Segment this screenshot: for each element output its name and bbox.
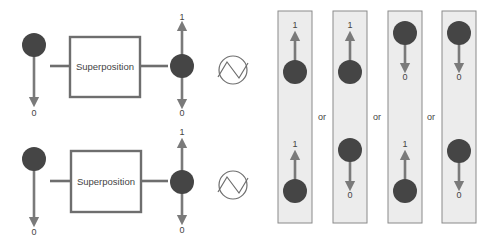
input-qubit (22, 147, 46, 171)
state-label-zero: 0 (456, 72, 461, 82)
state-label-one: 1 (402, 139, 407, 149)
outcome-panel-2: 10 (333, 11, 367, 223)
superposition-diagram: 0Superposition100Superposition10 1110010… (0, 0, 495, 243)
state-label-one: 1 (292, 139, 297, 149)
input-state-label: 0 (31, 227, 36, 237)
row-top: 0Superposition10 (22, 12, 248, 118)
state-label-zero: 0 (347, 190, 352, 200)
row-bottom: 0Superposition10 (22, 127, 248, 237)
state-label-one: 1 (179, 127, 184, 137)
input-state-label: 0 (31, 108, 36, 118)
or-separator: or (373, 112, 381, 122)
output-qubit-superposed (170, 170, 194, 194)
wave-oscillation-icon (218, 171, 248, 199)
or-separator: or (427, 112, 435, 122)
outcome-qubit (447, 21, 471, 45)
outcome-panel-3: 01 (388, 11, 422, 223)
input-qubit (22, 33, 46, 57)
state-label-one: 1 (292, 20, 297, 30)
or-separator: or (318, 112, 326, 122)
state-label-zero: 0 (179, 225, 184, 235)
outcome-qubit (283, 60, 307, 84)
outcome-panel-4: 00 (442, 11, 476, 223)
state-label-zero: 0 (402, 72, 407, 82)
outcome-panel-1: 11 (278, 11, 312, 223)
state-label-one: 1 (347, 20, 352, 30)
wave-oscillation-icon (218, 56, 248, 84)
output-qubit-superposed (170, 54, 194, 78)
superposition-gate-label: Superposition (77, 176, 135, 187)
superposition-gate-label: Superposition (76, 61, 134, 72)
outcome-qubit (338, 60, 362, 84)
measurement-outcomes: 11100100ororor (278, 11, 476, 223)
state-label-zero: 0 (456, 190, 461, 200)
outcome-qubit (283, 179, 307, 203)
outcome-qubit (393, 179, 417, 203)
outcome-qubit (393, 21, 417, 45)
input-rows: 0Superposition100Superposition10 (22, 12, 248, 237)
state-label-one: 1 (179, 12, 184, 22)
outcome-qubit (447, 139, 471, 163)
state-label-zero: 0 (179, 108, 184, 118)
outcome-qubit (338, 138, 362, 162)
